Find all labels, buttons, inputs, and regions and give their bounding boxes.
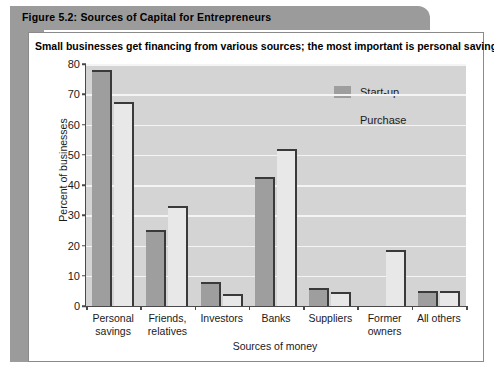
bar-purchase-1	[168, 206, 188, 306]
bar-purchase-3	[277, 149, 297, 306]
x-tick-label: owners	[368, 325, 402, 338]
bar-body	[168, 206, 188, 306]
x-tick-label: savings	[92, 325, 133, 338]
y-tick-label: 50	[68, 149, 80, 161]
y-tick-mark	[82, 275, 86, 277]
x-category-label: Friends,relatives	[148, 312, 187, 337]
bar-purchase-2	[223, 294, 243, 306]
bar-body	[255, 177, 275, 306]
y-tick-mark	[82, 245, 86, 247]
y-tick-mark	[82, 124, 86, 126]
x-tick-label: Investors	[200, 312, 243, 325]
plot-area: Start-upPurchase 01020304050607080Person…	[85, 64, 466, 307]
x-tick-mark	[357, 306, 359, 310]
figure-title: Figure 5.2: Sources of Capital for Entre…	[22, 11, 271, 23]
x-tick-label: Banks	[261, 312, 290, 325]
bar-body	[440, 291, 460, 306]
x-category-label: Suppliers	[308, 312, 352, 325]
y-tick-label: 0	[74, 300, 80, 312]
x-axis-title: Sources of money	[85, 340, 465, 352]
bar-startup-2	[201, 282, 221, 306]
x-tick-mark	[412, 306, 414, 310]
figure-root: Figure 5.2: Sources of Capital for Entre…	[0, 0, 494, 370]
bar-startup-0	[92, 70, 112, 306]
y-tick-label: 70	[68, 88, 80, 100]
x-tick-mark	[303, 306, 305, 310]
x-tick-label: All others	[417, 312, 461, 325]
x-tick-mark	[195, 306, 197, 310]
y-tick-label: 30	[68, 209, 80, 221]
y-tick-mark	[82, 63, 86, 65]
x-tick-label: Friends,	[148, 312, 187, 325]
bar-body	[418, 291, 438, 306]
legend-item-startup: Start-up	[334, 82, 406, 102]
bar-body	[386, 250, 406, 306]
bar-body	[92, 70, 112, 306]
x-tick-mark	[86, 306, 88, 310]
x-tick-label: relatives	[148, 325, 187, 338]
bar-body	[114, 102, 134, 306]
bar-startup-3	[255, 177, 275, 306]
bar-body	[223, 294, 243, 306]
gridline	[86, 125, 466, 127]
x-category-label: Personalsavings	[92, 312, 133, 337]
x-tick-mark	[140, 306, 142, 310]
bar-purchase-0	[114, 102, 134, 306]
bar-body	[201, 282, 221, 306]
bar-body	[146, 230, 166, 306]
x-tick-label: Former	[368, 312, 402, 325]
x-category-label: Formerowners	[368, 312, 402, 337]
gridline	[86, 64, 466, 66]
legend-swatch-startup	[334, 86, 351, 98]
y-tick-label: 80	[68, 58, 80, 70]
plot-wrapper: Percent of businesses Start-upPurchase 0…	[28, 56, 484, 362]
gridline	[86, 185, 466, 187]
bar-startup-6	[418, 291, 438, 306]
y-tick-label: 20	[68, 240, 80, 252]
x-category-label: Investors	[200, 312, 243, 325]
y-tick-mark	[82, 184, 86, 186]
x-category-label: Banks	[261, 312, 290, 325]
bar-startup-4	[309, 288, 329, 306]
bar-body	[331, 292, 351, 306]
y-tick-mark	[82, 154, 86, 156]
bar-body	[309, 288, 329, 306]
x-category-label: All others	[417, 312, 461, 325]
chart-subtitle: Small businesses get financing from vari…	[35, 40, 475, 52]
legend-label: Start-up	[360, 86, 399, 98]
bar-startup-1	[146, 230, 166, 306]
gridline	[86, 246, 466, 248]
x-tick-mark	[249, 306, 251, 310]
x-tick-label: Personal	[92, 312, 133, 325]
bar-body	[277, 149, 297, 306]
y-tick-mark	[82, 94, 86, 96]
legend-item-purchase: Purchase	[334, 110, 406, 130]
x-tick-mark	[466, 306, 468, 310]
x-tick-label: Suppliers	[308, 312, 352, 325]
bar-purchase-4	[331, 292, 351, 306]
y-tick-label: 60	[68, 119, 80, 131]
gridline	[86, 94, 466, 96]
bar-purchase-5	[386, 250, 406, 306]
chart-legend: Start-upPurchase	[334, 82, 406, 138]
y-tick-label: 40	[68, 179, 80, 191]
gridline	[86, 215, 466, 217]
y-tick-mark	[82, 215, 86, 217]
gridline	[86, 155, 466, 157]
bar-purchase-6	[440, 291, 460, 306]
y-tick-label: 10	[68, 270, 80, 282]
gridline	[86, 276, 466, 278]
